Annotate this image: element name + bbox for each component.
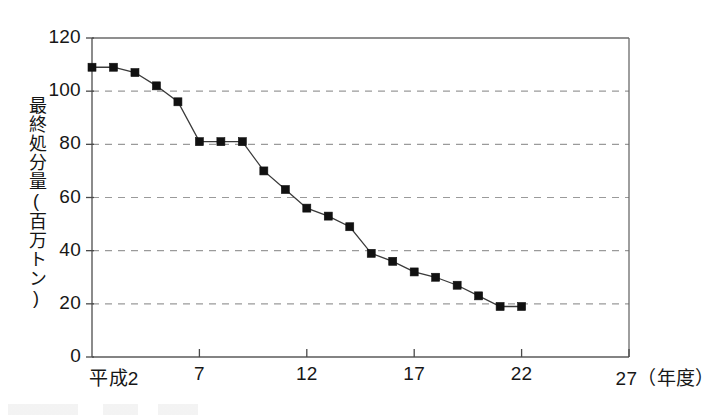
data-point-marker (195, 138, 203, 146)
data-point-marker (281, 186, 289, 194)
data-point-marker (475, 292, 483, 300)
y-tick-label-100: 100 (0, 79, 81, 101)
y-tick-label-40: 40 (0, 239, 81, 261)
data-point-markers (88, 63, 526, 310)
data-point-marker (88, 63, 96, 71)
data-point-marker (217, 138, 225, 146)
data-point-marker (109, 63, 117, 71)
data-point-marker (410, 268, 418, 276)
x-tick-label-4: 22 (452, 363, 592, 385)
y-tick-label-20: 20 (0, 292, 81, 314)
data-point-marker (324, 212, 332, 220)
data-point-marker (496, 302, 504, 310)
data-point-marker (238, 138, 246, 146)
series-polyline-final-disposal (92, 67, 522, 306)
x-tick-label-5: 27（年度） (595, 363, 706, 390)
y-tick-label-60: 60 (0, 186, 81, 208)
data-point-marker (453, 281, 461, 289)
data-point-marker (346, 223, 354, 231)
data-point-marker (174, 98, 182, 106)
data-point-marker (389, 257, 397, 265)
data-series-line (92, 67, 522, 306)
data-point-marker (518, 302, 526, 310)
data-point-marker (131, 69, 139, 77)
gridlines-group (92, 91, 629, 304)
page-edge-artifact (8, 404, 198, 415)
data-point-marker (303, 204, 311, 212)
data-point-marker (260, 167, 268, 175)
data-point-marker (367, 249, 375, 257)
y-tick-label-80: 80 (0, 132, 81, 154)
y-tick-label-120: 120 (0, 26, 81, 48)
data-point-marker (432, 273, 440, 281)
data-point-marker (152, 82, 160, 90)
